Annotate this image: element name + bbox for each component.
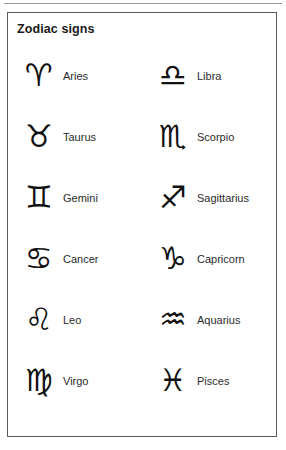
zodiac-sign-label: Pisces [195, 375, 229, 387]
zodiac-sign-row: ♑Capricorn [151, 228, 285, 289]
taurus-symbol-icon: ♉ [17, 121, 61, 152]
panel-title: Zodiac signs [17, 22, 95, 36]
zodiac-sign-row: ♉Taurus [17, 106, 151, 167]
zodiac-signs-grid: ♈Aries♉Taurus♊Gemini♋Cancer♌Leo♍Virgo ♎L… [8, 45, 276, 425]
capricorn-symbol-icon: ♑ [151, 243, 195, 274]
zodiac-sign-label: Gemini [61, 192, 98, 204]
zodiac-column-left: ♈Aries♉Taurus♊Gemini♋Cancer♌Leo♍Virgo [17, 45, 151, 425]
aquarius-symbol-icon: ♒ [151, 304, 195, 335]
sagittarius-symbol-icon: ♐ [151, 182, 195, 213]
zodiac-sign-label: Scorpio [195, 131, 234, 143]
zodiac-sign-label: Libra [195, 70, 221, 82]
cancer-symbol-icon: ♋ [17, 243, 61, 274]
zodiac-sign-row: ♏Scorpio [151, 106, 285, 167]
zodiac-column-right: ♎Libra♏Scorpio♐Sagittarius♑Capricorn♒Aqu… [151, 45, 285, 425]
zodiac-sign-row: ♒Aquarius [151, 289, 285, 350]
gemini-symbol-icon: ♊ [17, 182, 61, 213]
virgo-symbol-icon: ♍ [17, 365, 61, 396]
scorpio-symbol-icon: ♏ [151, 121, 195, 152]
aries-symbol-icon: ♈ [17, 60, 61, 91]
zodiac-sign-label: Leo [61, 314, 81, 326]
zodiac-sign-label: Capricorn [195, 253, 245, 265]
zodiac-sign-label: Virgo [61, 375, 88, 387]
zodiac-sign-row: ♊Gemini [17, 167, 151, 228]
zodiac-sign-label: Sagittarius [195, 192, 249, 204]
zodiac-sign-label: Aries [61, 70, 88, 82]
zodiac-sign-row: ♓Pisces [151, 350, 285, 411]
zodiac-sign-label: Cancer [61, 253, 98, 265]
top-divider-rule [4, 3, 282, 4]
zodiac-sign-row: ♈Aries [17, 45, 151, 106]
leo-symbol-icon: ♌ [17, 304, 61, 335]
libra-symbol-icon: ♎ [151, 60, 195, 91]
zodiac-sign-row: ♋Cancer [17, 228, 151, 289]
zodiac-sign-row: ♌Leo [17, 289, 151, 350]
zodiac-sign-row: ♐Sagittarius [151, 167, 285, 228]
zodiac-sign-label: Aquarius [195, 314, 240, 326]
zodiac-sign-label: Taurus [61, 131, 96, 143]
pisces-symbol-icon: ♓ [151, 365, 195, 396]
zodiac-sign-row: ♎Libra [151, 45, 285, 106]
zodiac-sign-row: ♍Virgo [17, 350, 151, 411]
zodiac-signs-panel: Zodiac signs ♈Aries♉Taurus♊Gemini♋Cancer… [7, 12, 277, 437]
